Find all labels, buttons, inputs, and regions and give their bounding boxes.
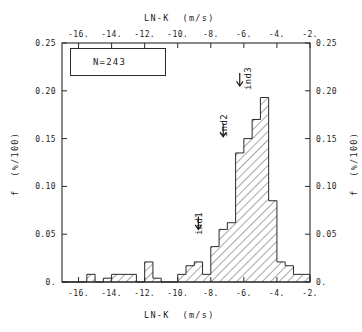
y-ticklabel-left: 0.15 [35,135,56,144]
x-ticklabel-top: -8. [203,30,219,39]
x-ticklabel-bottom: -2. [302,289,318,298]
histogram-figure: LN-K (m/s) LN-K (m/s) f (%/100) f (%/100… [0,0,362,332]
y-ticklabel-right: 0.25 [316,39,337,48]
x-ticklabel-bottom: -12. [134,289,155,298]
x-ticklabel-bottom: -14. [101,289,122,298]
x-ticklabel-top: -10. [167,30,188,39]
histogram-step-path [62,97,310,282]
x-ticklabel-bottom: -6. [236,289,252,298]
y-ticklabel-right: 0.20 [316,87,337,96]
x-ticklabel-bottom: -16. [68,289,89,298]
histogram-bars [62,97,310,282]
y-ticklabel-left: 0.20 [35,87,56,96]
x-ticklabel-top: -16. [68,30,89,39]
x-ticklabel-top: -6. [236,30,252,39]
y-ticklabel-left: 0.05 [35,230,56,239]
x-ticklabel-top: -12. [134,30,155,39]
y-ticklabel-left: 0. [46,278,56,287]
x-ticklabel-top: -14. [101,30,122,39]
y-ticklabel-right: 0. [316,278,326,287]
x-ticklabel-top: -2. [302,30,318,39]
x-ticklabel-bottom: -8. [203,289,219,298]
y-ticklabel-left: 0.25 [35,39,56,48]
y-ticklabel-right: 0.10 [316,182,337,191]
plot-svg: -16.-16.-14.-14.-12.-12.-10.-10.-8.-8.-6… [0,0,362,332]
x-ticklabel-bottom: -10. [167,289,188,298]
y-ticklabel-right: 0.15 [316,135,337,144]
y-ticklabel-right: 0.05 [316,230,337,239]
tick-labels: -16.-16.-14.-14.-12.-12.-10.-10.-8.-8.-6… [35,30,337,298]
x-ticklabel-top: -4. [269,30,285,39]
y-ticklabel-left: 0.10 [35,182,56,191]
x-ticklabel-bottom: -4. [269,289,285,298]
